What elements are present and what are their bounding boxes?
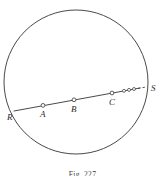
point-label-r: R (6, 112, 13, 122)
ellipsis-dot-3 (133, 88, 136, 91)
point-label-s: S (151, 83, 156, 93)
point-marker-b (72, 98, 76, 102)
point-label-a: A (39, 109, 46, 119)
point-label-c: C (109, 97, 116, 107)
secant-dash-segment (138, 87, 145, 88)
point-marker-a (41, 104, 45, 108)
geometry-diagram: R A B C S (0, 0, 165, 176)
circle-shape (4, 10, 148, 154)
ellipsis-dot-1 (123, 89, 126, 92)
ellipsis-dot-2 (128, 88, 131, 91)
point-label-b: B (71, 104, 77, 114)
secant-line-shape (14, 88, 140, 111)
figure-container: R A B C S Fig. 227 (0, 0, 165, 176)
point-marker-c (110, 91, 114, 95)
figure-caption: Fig. 227 (0, 170, 165, 176)
